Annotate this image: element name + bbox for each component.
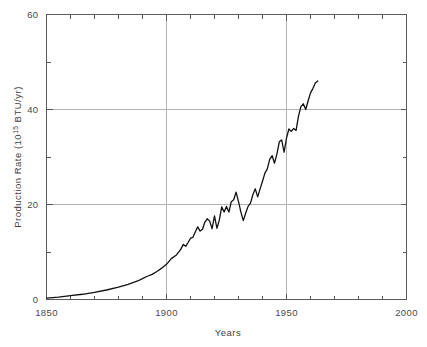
x-tick-label: 2000 [395,307,418,318]
y-axis-title-main: Production Rate (10 [12,134,23,228]
x-axis-title: Years [215,327,241,338]
y-tick-label: 20 [27,199,38,210]
chart-figure: 1850190019502000 0204060 Years Productio… [0,0,427,347]
chart-background [0,0,427,347]
y-axis-title-tail: BTU/yr) [12,86,23,125]
x-tick-label: 1950 [275,307,298,318]
y-tick-label: 40 [27,104,38,115]
y-axis-title-exponent: 15 [12,126,19,134]
x-tick-label: 1900 [155,307,178,318]
line-chart-svg: 1850190019502000 0204060 Years Productio… [0,0,427,347]
y-tick-label: 0 [33,294,39,305]
y-tick-label: 60 [27,9,38,20]
y-axis-title: Production Rate (1015 BTU/yr) [12,86,24,228]
x-tick-label: 1850 [35,307,58,318]
